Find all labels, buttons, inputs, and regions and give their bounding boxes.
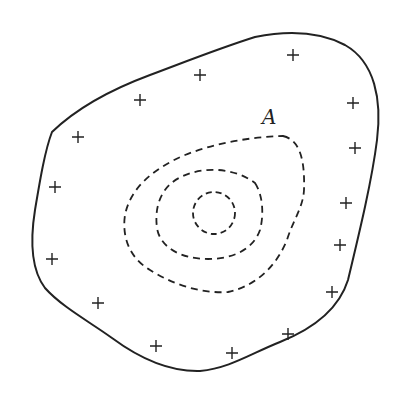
contour-outer bbox=[124, 136, 304, 292]
label-a: A bbox=[260, 105, 276, 129]
plus-icon bbox=[150, 340, 162, 352]
plus-icon bbox=[46, 253, 58, 265]
contour-middle bbox=[156, 170, 262, 259]
plus-icon bbox=[326, 286, 338, 298]
plus-icon bbox=[287, 49, 299, 61]
plus-icon bbox=[349, 142, 361, 154]
diagram-canvas: A bbox=[0, 0, 403, 394]
contour-inner bbox=[193, 192, 235, 234]
plus-icon bbox=[92, 297, 104, 309]
plus-icon bbox=[194, 69, 206, 81]
diagram-svg: A bbox=[0, 0, 403, 394]
plus-icon bbox=[347, 97, 359, 109]
plus-icon bbox=[49, 181, 61, 193]
plus-icon bbox=[282, 328, 294, 340]
plus-icon bbox=[226, 347, 238, 359]
plus-icon bbox=[134, 94, 146, 106]
plus-icon bbox=[72, 131, 84, 143]
plus-icon bbox=[340, 197, 352, 209]
plus-icon bbox=[334, 239, 346, 251]
plus-marks bbox=[46, 49, 361, 359]
boundary-outline bbox=[32, 33, 378, 371]
